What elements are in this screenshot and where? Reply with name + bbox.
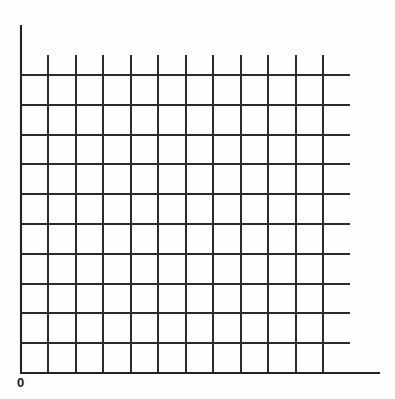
vertical-gridlines — [48, 55, 323, 373]
chart-container: 0 — [0, 0, 395, 399]
grid-chart-plot — [0, 0, 395, 399]
origin-label: 0 — [17, 376, 24, 389]
